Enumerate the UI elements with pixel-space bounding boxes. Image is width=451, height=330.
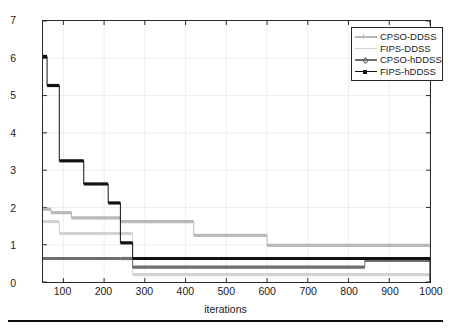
legend-marker-diamond-icon <box>355 54 377 65</box>
legend-label: FIPS-DDSS <box>380 43 431 54</box>
chart-figure: 01234567 1002003004005006007008009001000… <box>0 0 451 330</box>
legend-item-cpso-hddss[interactable]: CPSO-hDDSS <box>355 54 438 66</box>
legend-marker-square-icon <box>355 66 377 77</box>
x-tick-label: 700 <box>299 286 317 297</box>
x-tick-label: 200 <box>95 286 113 297</box>
y-tick-label: 6 <box>10 52 16 63</box>
y-tick-label: 0 <box>10 278 16 289</box>
legend-marker-plus-icon <box>355 31 377 42</box>
legend-item-fips-ddss[interactable]: FIPS-DDSS <box>355 43 438 55</box>
legend-label: CPSO-hDDSS <box>380 54 442 65</box>
x-tick-label: 900 <box>381 286 399 297</box>
bottom-divider <box>8 320 443 322</box>
x-tick-label: 1000 <box>419 286 442 297</box>
legend-item-cpso-ddss[interactable]: CPSO-DDSS <box>355 31 438 43</box>
y-tick-label: 3 <box>10 165 16 176</box>
y-tick-label: 7 <box>10 15 16 26</box>
x-tick-label: 100 <box>54 286 72 297</box>
x-tick-label: 600 <box>258 286 276 297</box>
legend-marker-none-icon <box>355 43 377 54</box>
x-tick-label: 300 <box>136 286 154 297</box>
x-tick-label: 500 <box>217 286 235 297</box>
x-tick-label: 400 <box>177 286 195 297</box>
legend-label: CPSO-DDSS <box>380 31 436 42</box>
x-tick-label: 800 <box>340 286 358 297</box>
chart-legend[interactable]: CPSO-DDSSFIPS-DDSSCPSO-hDDSSFIPS-hDDSS <box>351 27 443 81</box>
legend-label: FIPS-hDDSS <box>380 66 436 77</box>
y-tick-label: 1 <box>10 240 16 251</box>
x-axis-label: iterations <box>0 303 451 315</box>
y-tick-label: 2 <box>10 203 16 214</box>
y-tick-label: 4 <box>10 127 16 138</box>
y-tick-label: 5 <box>10 90 16 101</box>
legend-item-fips-hddss[interactable]: FIPS-hDDSS <box>355 66 438 78</box>
